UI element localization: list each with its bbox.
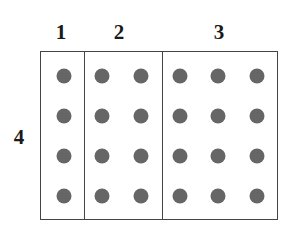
dot-icon (134, 109, 149, 124)
dot-icon (57, 109, 72, 124)
dot-icon (250, 149, 265, 164)
dot-icon (95, 189, 110, 204)
dot-icon (250, 189, 265, 204)
dot-icon (95, 69, 110, 84)
dot-icon (250, 69, 265, 84)
dot-icon (134, 69, 149, 84)
divider-1 (84, 51, 85, 220)
column-label-2: 2 (114, 22, 125, 43)
dot-icon (173, 149, 188, 164)
dot-icon (173, 69, 188, 84)
dot-icon (57, 69, 72, 84)
dot-array-box (40, 51, 278, 220)
dot-icon (211, 69, 226, 84)
divider-2 (162, 51, 163, 220)
column-label-3: 3 (214, 22, 225, 43)
dot-icon (57, 189, 72, 204)
dot-icon (134, 189, 149, 204)
dot-icon (173, 109, 188, 124)
dot-icon (250, 109, 265, 124)
dot-icon (211, 189, 226, 204)
dot-icon (57, 149, 72, 164)
dot-icon (211, 149, 226, 164)
dot-icon (95, 109, 110, 124)
dot-icon (211, 109, 226, 124)
column-label-1: 1 (56, 22, 67, 43)
dot-icon (134, 149, 149, 164)
dot-icon (95, 149, 110, 164)
row-label-4: 4 (14, 127, 25, 148)
dot-icon (173, 189, 188, 204)
